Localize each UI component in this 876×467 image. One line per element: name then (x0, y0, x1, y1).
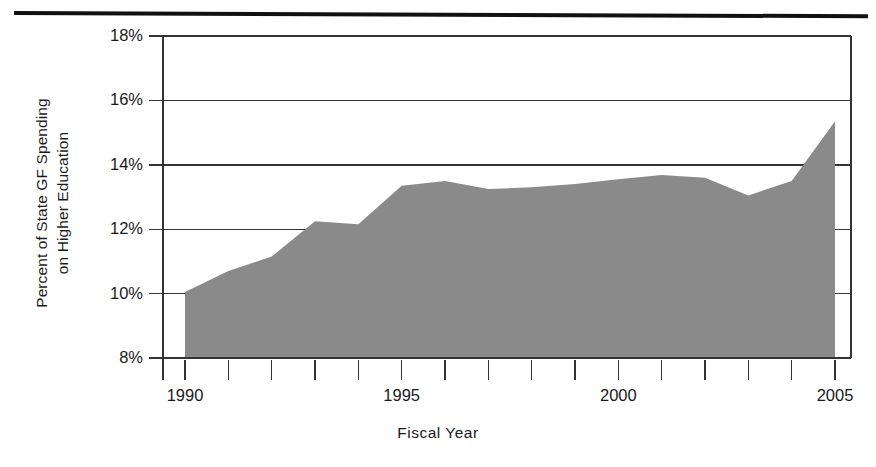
area-series (185, 121, 835, 358)
y-tick-label: 18% (73, 26, 143, 45)
x-axis-title: Fiscal Year (0, 424, 876, 442)
y-axis-ticks (149, 36, 163, 358)
x-tick-label: 1990 (145, 386, 225, 405)
x-tick-label: 2000 (578, 386, 658, 405)
y-tick-label: 10% (73, 284, 143, 303)
x-tick-label: 2005 (795, 386, 875, 405)
y-tick-label: 16% (73, 90, 143, 109)
chart-figure: Percent of State GF Spending on Higher E… (0, 0, 876, 467)
y-tick-label: 14% (73, 155, 143, 174)
x-axis-ticks (185, 360, 835, 380)
x-tick-label: 1995 (362, 386, 442, 405)
y-tick-label: 12% (73, 219, 143, 238)
y-tick-label: 8% (73, 348, 143, 367)
